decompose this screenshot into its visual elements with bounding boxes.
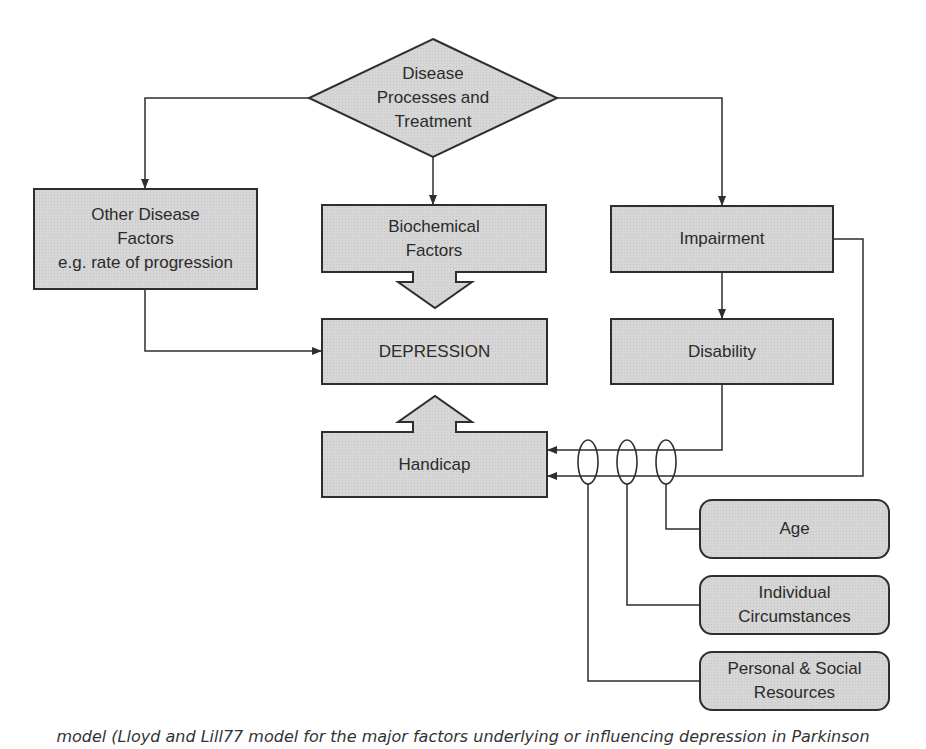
moderator-ellipse-individual <box>617 440 637 484</box>
node-depression-shape[interactable] <box>322 319 547 384</box>
edge-age-moderator <box>666 484 700 529</box>
figure-caption: model (Lloyd and Lill77 model for the ma… <box>0 727 926 749</box>
node-other-disease-factors-shape[interactable] <box>34 189 257 289</box>
moderator-ellipses <box>578 440 676 484</box>
node-personal-social-resources-shape[interactable] <box>700 652 889 710</box>
node-impairment-shape[interactable] <box>611 206 833 272</box>
node-individual-circumstances-shape[interactable] <box>700 576 889 634</box>
node-handicap-shape[interactable] <box>322 396 547 497</box>
node-disease-processes-shape[interactable] <box>309 39 557 157</box>
moderator-ellipse-personal <box>578 440 598 484</box>
node-biochemical-factors-shape[interactable] <box>322 205 546 308</box>
edge-disability-to-handicap <box>548 384 722 450</box>
shapes <box>34 39 889 710</box>
edge-personal-moderator <box>588 484 700 681</box>
edge-disease-to-impairment <box>557 98 722 205</box>
edge-individual-moderator <box>627 484 700 605</box>
moderator-ellipse-age <box>656 440 676 484</box>
edge-disease-to-other <box>145 98 309 188</box>
node-disability-shape[interactable] <box>611 319 833 384</box>
edge-other-to-depression <box>145 289 321 351</box>
node-age-shape[interactable] <box>700 500 889 558</box>
